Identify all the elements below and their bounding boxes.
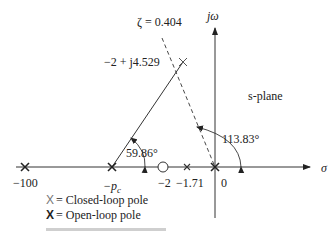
closed-loop-pole-label: −2 + j4.529: [104, 55, 160, 69]
angle-label-origin: 113.83°: [222, 132, 260, 146]
legend: X = Closed-loop pole X = Open-loop pole: [46, 193, 148, 222]
cut-off-footnote: [46, 228, 166, 231]
label-minus-2: −2: [158, 176, 171, 190]
damping-ratio-label: ζ = 0.404: [137, 15, 182, 29]
label-minus-1-71: −1.71: [176, 176, 204, 190]
zero-minus-2: [158, 162, 168, 172]
closed-loop-complex-pole: [179, 58, 187, 66]
label-origin: 0: [221, 176, 227, 190]
damping-ratio-line: [162, 38, 215, 167]
s-plane-diagram: σ jω s-plane ζ = 0.404 −2 + j4.529 59.86…: [0, 0, 336, 231]
label-minus-100: −100: [13, 176, 38, 190]
imaginary-axis-label: jω: [205, 9, 219, 23]
angle-label-pc: 59.86°: [126, 146, 158, 160]
plane-label: s-plane: [248, 89, 283, 103]
legend-open-loop-text: = Open-loop pole: [56, 208, 141, 222]
legend-closed-loop-symbol: X: [46, 193, 54, 207]
legend-open-loop-symbol: X: [46, 208, 54, 222]
legend-closed-loop-text: = Closed-loop pole: [56, 193, 148, 207]
real-axis-label: σ: [321, 161, 328, 175]
